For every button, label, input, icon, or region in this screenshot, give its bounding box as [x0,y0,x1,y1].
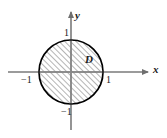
y-axis-label: y [75,10,80,21]
tick-label-y-negative-one: −1 [61,107,72,117]
region-label-d: D [85,54,93,65]
tick-label-x-positive-one: 1 [106,75,111,85]
tick-label-x-negative-one: −1 [21,75,32,85]
tick-label-y-positive-one: 1 [64,28,69,38]
x-axis-label: x [153,64,159,75]
math-figure-unit-disk: 1 −1 −1 1 y x D [0,0,167,138]
figure-canvas [0,0,167,138]
